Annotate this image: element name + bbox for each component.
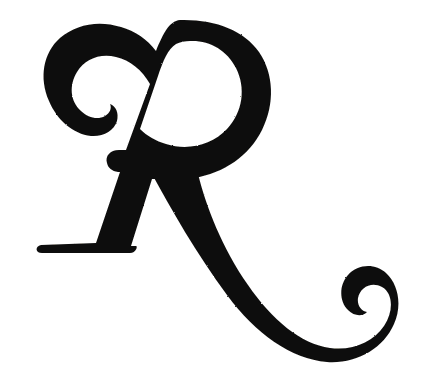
decorative-letter-r-artwork: Large black calligraphic swash capital l…: [0, 0, 436, 368]
image-canvas: Large black calligraphic swash capital l…: [0, 0, 436, 368]
